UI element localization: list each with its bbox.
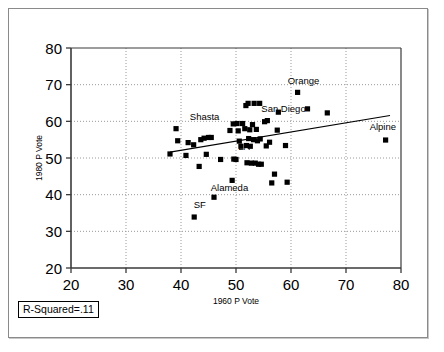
data-point-marker — [242, 126, 247, 131]
data-point-marker — [211, 195, 216, 200]
data-point-marker — [283, 143, 288, 148]
x-axis-tick-label: 30 — [118, 276, 135, 293]
y-axis-tick-label: 80 — [45, 40, 62, 57]
data-point-marker — [235, 121, 240, 126]
data-point-marker — [173, 126, 178, 131]
data-point-label: Alpine — [370, 121, 396, 132]
data-point-marker — [218, 157, 223, 162]
data-point-label: Shasta — [190, 111, 220, 122]
data-point-marker — [246, 101, 251, 106]
x-axis-tick-label: 50 — [228, 276, 245, 293]
data-point-label: Alameda — [211, 182, 249, 193]
data-point-marker — [295, 90, 300, 95]
x-axis-title: 1960 P Vote — [213, 296, 259, 306]
data-point-marker — [247, 127, 252, 132]
data-point-marker — [186, 140, 191, 145]
y-axis-tick-label: 20 — [45, 260, 62, 277]
y-axis-tick-label: 60 — [45, 113, 62, 130]
data-point-marker — [252, 101, 257, 106]
data-point-marker — [183, 153, 188, 158]
data-point-marker — [192, 214, 197, 219]
y-axis-tick-label: 40 — [45, 186, 62, 203]
data-point-label: Orange — [288, 75, 320, 86]
data-point-marker — [275, 128, 280, 133]
data-point-marker — [240, 121, 245, 126]
r-squared-annotation-box: R-Squared=.11 — [18, 301, 99, 318]
data-point-marker — [167, 151, 172, 156]
data-point-marker — [209, 135, 214, 140]
scatter-plot-figure: 20304050607080203040506070801960 P Vote1… — [0, 0, 444, 352]
data-point-marker — [272, 172, 277, 177]
x-axis-tick-label: 80 — [393, 276, 410, 293]
data-point-label: San Diego — [261, 103, 305, 114]
data-point-marker — [233, 157, 238, 162]
x-axis-tick-label: 40 — [173, 276, 190, 293]
data-point-marker — [197, 164, 202, 169]
x-axis-tick-label: 70 — [338, 276, 355, 293]
data-point-marker — [285, 180, 290, 185]
data-point-marker — [258, 136, 263, 141]
data-point-marker — [269, 180, 274, 185]
data-point-marker — [250, 122, 255, 127]
y-axis-title: 1980 P Vote — [34, 135, 44, 181]
x-axis-tick-label: 20 — [63, 276, 80, 293]
data-point-marker — [227, 128, 232, 133]
data-point-label: SF — [194, 199, 206, 210]
data-point-marker — [383, 137, 388, 142]
data-point-marker — [236, 128, 241, 133]
y-axis-tick-label: 50 — [45, 150, 62, 167]
data-point-marker — [191, 142, 196, 147]
data-point-marker — [254, 127, 259, 132]
scatter-plot-canvas: 20304050607080203040506070801960 P Vote1… — [0, 0, 444, 352]
y-axis-tick-label: 30 — [45, 223, 62, 240]
y-axis-tick-label: 70 — [45, 76, 62, 93]
data-point-marker — [259, 162, 264, 167]
data-point-marker — [325, 110, 330, 115]
data-point-marker — [175, 138, 180, 143]
data-point-marker — [204, 152, 209, 157]
data-point-label: LA — [238, 141, 250, 152]
data-point-marker — [265, 118, 270, 123]
x-axis-tick-label: 60 — [283, 276, 300, 293]
data-point-marker — [267, 140, 272, 145]
